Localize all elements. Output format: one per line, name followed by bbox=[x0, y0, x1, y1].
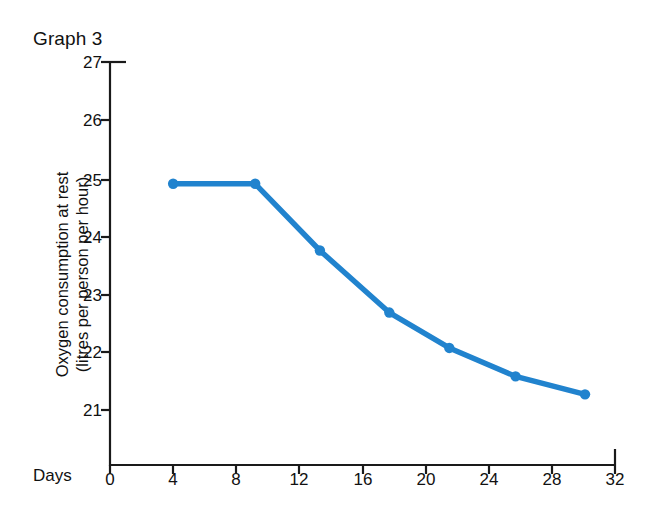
data-point bbox=[250, 179, 260, 189]
y-axis-ticks bbox=[101, 62, 110, 410]
data-point bbox=[384, 307, 394, 317]
chart-figure: Graph 3 Oxygen consumption at rest (litr… bbox=[0, 0, 646, 527]
data-series-line bbox=[173, 184, 585, 395]
data-point bbox=[510, 371, 520, 381]
data-point bbox=[580, 389, 590, 399]
axis-frame bbox=[110, 62, 615, 465]
data-point bbox=[315, 245, 325, 255]
plot-area bbox=[0, 0, 646, 527]
data-point bbox=[444, 343, 454, 353]
x-axis-ticks bbox=[110, 465, 615, 474]
data-series-markers bbox=[168, 179, 590, 400]
data-point bbox=[168, 179, 178, 189]
